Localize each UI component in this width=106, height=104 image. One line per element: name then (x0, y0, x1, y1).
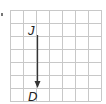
vector-arrow (35, 35, 41, 88)
label-D: D (28, 90, 37, 103)
label-J: J (28, 24, 35, 37)
grid-lines (10, 10, 102, 102)
arrowhead-icon (35, 81, 41, 88)
grid-diagram (0, 0, 106, 104)
